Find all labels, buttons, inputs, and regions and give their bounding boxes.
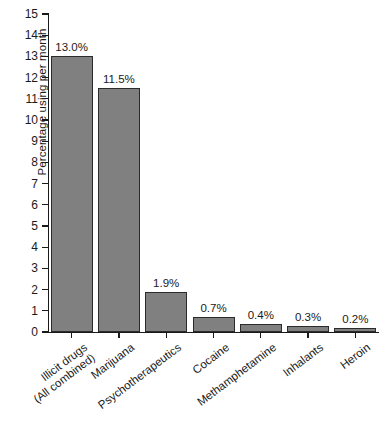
y-axis-tick-label: 7 [0, 178, 38, 190]
y-axis-tick [42, 162, 48, 163]
y-axis-tick-label: 9 [0, 135, 38, 147]
category-label-line: Heroin [338, 341, 372, 371]
x-axis-tick [118, 333, 119, 338]
x-axis-tick [71, 333, 72, 338]
category-label-line: Cocaine [190, 341, 231, 376]
x-axis-tick [213, 333, 214, 338]
y-axis-tick-label: 3 [0, 262, 38, 274]
y-axis-tick [42, 183, 48, 184]
bar [193, 317, 235, 332]
y-axis-tick [42, 141, 48, 142]
y-axis-tick-label: 10 [0, 114, 38, 126]
bar-value-label: 11.5% [99, 73, 139, 85]
y-axis-tick-label: 12 [0, 72, 38, 84]
y-axis-tick-label: 0 [0, 326, 38, 338]
category-label-line: Inhalants [281, 341, 326, 379]
y-axis-tick-label: 1 [0, 305, 38, 317]
bar-value-label: 0.2% [335, 313, 375, 325]
bar [145, 292, 187, 332]
bar [240, 324, 282, 332]
y-axis-tick [42, 268, 48, 269]
x-axis-tick [260, 333, 261, 338]
y-axis-tick-label: 8 [0, 156, 38, 168]
bar-value-label: 0.3% [288, 311, 328, 323]
x-axis-tick [307, 333, 308, 338]
bar [98, 88, 140, 332]
y-axis-tick [42, 204, 48, 205]
y-axis-tick [42, 56, 48, 57]
y-axis-tick [42, 98, 48, 99]
bar-value-label: 0.4% [241, 309, 281, 321]
bar [287, 326, 329, 332]
y-axis-tick-label: 13 [0, 50, 38, 62]
category-label-line: Psychotherapeutics [96, 341, 183, 411]
y-axis-tick-label: 4 [0, 241, 38, 253]
x-axis-tick [166, 333, 167, 338]
y-axis-tick-label: 15 [0, 8, 38, 20]
y-axis-tick-label: 11 [0, 93, 38, 105]
y-axis-tick [42, 289, 48, 290]
y-axis-tick-label: 14 [0, 29, 38, 41]
bar-value-label: 1.9% [146, 277, 186, 289]
bar-value-label: 13.0% [52, 41, 92, 53]
y-axis-tick [42, 247, 48, 248]
y-axis-tick [42, 35, 48, 36]
y-axis-tick [42, 331, 48, 332]
y-axis-tick [42, 310, 48, 311]
bar [51, 56, 93, 332]
y-axis-tick-label: 5 [0, 220, 38, 232]
bar-value-label: 0.7% [194, 302, 234, 314]
y-axis-tick [42, 225, 48, 226]
y-axis-line [48, 13, 49, 333]
y-axis-tick [42, 119, 48, 120]
bar [334, 328, 376, 332]
y-axis-tick [42, 13, 48, 14]
y-axis-tick [42, 77, 48, 78]
y-axis-tick-label: 6 [0, 199, 38, 211]
x-axis-tick [355, 333, 356, 338]
y-axis-tick-label: 2 [0, 284, 38, 296]
bar-chart: Percentage using per month 1514131211109… [0, 0, 392, 427]
category-label-line: Methamphetamine [195, 341, 278, 408]
